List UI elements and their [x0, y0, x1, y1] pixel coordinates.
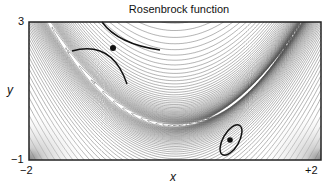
minimum-point-marker — [227, 137, 233, 143]
y-max-tick: 3 — [18, 15, 24, 27]
contour-plot — [0, 0, 330, 189]
y-axis-label: y — [7, 83, 13, 97]
saddle-point-marker — [110, 45, 116, 51]
x-max-tick: +2 — [305, 164, 318, 176]
x-axis-label: x — [170, 170, 176, 184]
x-min-tick: −2 — [20, 164, 33, 176]
